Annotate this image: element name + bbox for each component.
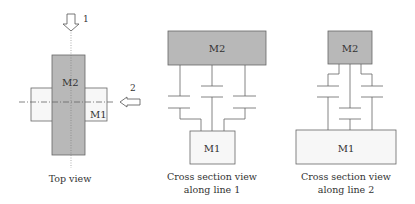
top-view-m2-box — [52, 55, 85, 155]
top-view: 1 2 M2 M1 Top view — [19, 14, 140, 184]
section1-m2-label: M2 — [209, 43, 226, 54]
section1-m1-label: M1 — [204, 143, 221, 154]
section1-caption-line2: along line 1 — [184, 184, 241, 195]
section1-caption-line1: Cross section view — [167, 171, 257, 182]
arrow-2-label: 2 — [130, 83, 136, 93]
top-view-m2-label: M2 — [62, 77, 79, 88]
section2-m1-label: M1 — [338, 143, 355, 154]
top-view-caption: Top view — [49, 173, 92, 184]
section2-caption-line2: along line 2 — [318, 184, 375, 195]
top-view-m1-label: M1 — [90, 109, 107, 120]
section2-m2-label: M2 — [342, 43, 359, 54]
stacked-die-diagram: 1 2 M2 M1 Top view M2 M1 Cross section v… — [0, 0, 415, 204]
arrow-1-label: 1 — [83, 14, 89, 24]
section2-caption-line1: Cross section view — [301, 171, 391, 182]
arrow-down-icon — [63, 14, 79, 31]
arrow-left-icon — [120, 97, 140, 107]
